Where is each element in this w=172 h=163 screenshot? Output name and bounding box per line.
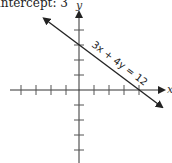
- y-axis-label: y: [75, 0, 83, 12]
- y-axis: [74, 12, 84, 163]
- x-axis-label: x: [167, 83, 172, 96]
- x-axis: [10, 85, 164, 95]
- line-series: [44, 19, 162, 108]
- equation-label: 3x + 4y = 12: [90, 39, 150, 88]
- coordinate-plane: y x 3x + 4y = 12: [0, 0, 172, 163]
